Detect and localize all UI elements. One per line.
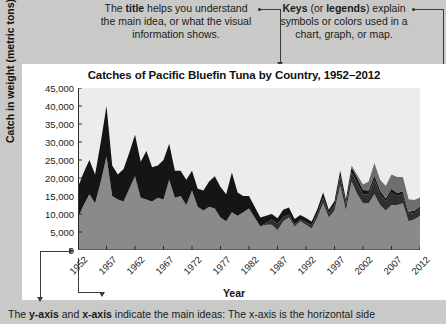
y-tick-label: 35,000 — [45, 119, 74, 130]
y-axis-title: Catch in weight (metric tons) — [4, 0, 16, 156]
annotation-xaxis-leader-v2 — [78, 268, 79, 292]
y-tick-label: 45,000 — [45, 83, 74, 94]
x-tick-label: 1952 — [58, 254, 90, 286]
y-tick-label: 30,000 — [45, 137, 74, 148]
annotation-yaxis-leader-v — [40, 251, 41, 299]
plot-area — [78, 88, 420, 250]
annotation-xaxis-leader-v1 — [78, 258, 79, 268]
x-tick-label: 2007 — [371, 254, 403, 286]
x-axis-title: Year — [22, 287, 446, 299]
annotation-keys-note: Keys (or legends) explain symbols or col… — [268, 2, 420, 42]
annotation-keys-leader-h1 — [414, 9, 444, 10]
annotation-title-note: The title helps you understand the main … — [96, 2, 256, 42]
x-tick-label: 1987 — [257, 254, 289, 286]
x-tick-label: 1997 — [314, 254, 346, 286]
x-tick-label: 1972 — [172, 254, 204, 286]
y-tick-label: 40,000 — [45, 101, 74, 112]
bottom-caption: The y-axis and x-axis indicate the main … — [8, 308, 446, 321]
y-axis-tick-labels: 05,00010,00015,00020,00025,00030,00035,0… — [22, 88, 74, 250]
annotation-yaxis-arrow — [37, 297, 43, 302]
annotation-yaxis-leader-h — [40, 251, 72, 252]
chart-card: Catches of Pacific Bluefin Tuna by Count… — [22, 64, 446, 300]
x-tick-label: 1977 — [200, 254, 232, 286]
x-tick-label: 1962 — [115, 254, 147, 286]
y-tick-label: 5,000 — [50, 227, 74, 238]
page-root: The title helps you understand the main … — [0, 0, 446, 324]
x-tick-label: 2012 — [400, 254, 432, 286]
x-axis-tick-labels: 1952195719621967197219771982198719921997… — [78, 254, 420, 288]
x-tick-label: 1957 — [86, 254, 118, 286]
y-tick-label: 20,000 — [45, 173, 74, 184]
y-tick-label: 10,000 — [45, 209, 74, 220]
x-tick-label: 2002 — [343, 254, 375, 286]
stacked-area-svg — [78, 88, 420, 250]
y-tick-label: 25,000 — [45, 155, 74, 166]
annotation-xaxis-arrow — [99, 292, 105, 297]
annotation-yaxis-arrow-tip — [69, 248, 74, 254]
x-tick-label: 1967 — [143, 254, 175, 286]
x-tick-label: 1992 — [286, 254, 318, 286]
chart-title: Catches of Pacific Bluefin Tuna by Count… — [22, 69, 446, 81]
y-tick-label: 15,000 — [45, 191, 74, 202]
x-tick-label: 1982 — [229, 254, 261, 286]
